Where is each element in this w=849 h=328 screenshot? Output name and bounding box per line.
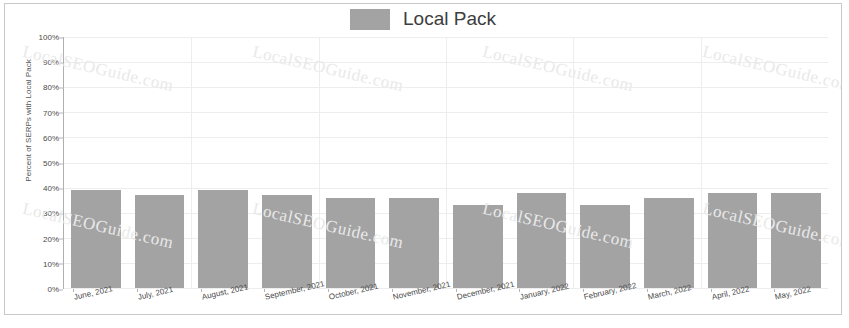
y-axis-tick-label: 0% xyxy=(23,285,59,294)
bar-slot xyxy=(701,37,765,288)
bar[interactable] xyxy=(708,193,758,288)
x-axis-tick-mark xyxy=(711,289,712,292)
bar-slot xyxy=(128,37,192,288)
x-axis-tick-mark xyxy=(392,289,393,292)
bar[interactable] xyxy=(198,190,248,288)
bar-slot xyxy=(255,37,319,288)
x-axis-tick-mark xyxy=(647,289,648,292)
x-axis-labels: June, 2021July, 2021August, 2021Septembe… xyxy=(63,291,828,328)
bar[interactable] xyxy=(517,193,567,288)
x-axis-tick-mark xyxy=(137,289,138,292)
chart-container: Local Pack Percent of SERPs with Local P… xyxy=(4,3,842,315)
y-axis-tick-label: 20% xyxy=(23,234,59,243)
plot-wrapper: 100%90%80%70%60%50%40%30%20%10%0% xyxy=(63,37,828,289)
legend-label-local-pack: Local Pack xyxy=(403,8,496,30)
bar-slot xyxy=(64,37,128,288)
plot-area xyxy=(63,37,828,289)
bar[interactable] xyxy=(71,190,121,288)
bar[interactable] xyxy=(326,198,376,288)
x-axis-tick-mark xyxy=(456,289,457,292)
bar[interactable] xyxy=(453,205,503,288)
bar[interactable] xyxy=(389,198,439,288)
bar[interactable] xyxy=(135,195,185,288)
chart-legend: Local Pack xyxy=(5,8,841,30)
bar[interactable] xyxy=(771,193,821,288)
y-axis-tick-mark xyxy=(59,289,63,290)
bar[interactable] xyxy=(580,205,630,288)
bar-slot xyxy=(382,37,446,288)
bar-slot xyxy=(319,37,383,288)
x-axis-tick-mark xyxy=(201,289,202,292)
bar[interactable] xyxy=(644,198,694,288)
bar-slot xyxy=(510,37,574,288)
bar[interactable] xyxy=(262,195,312,288)
y-axis-tick-label: 10% xyxy=(23,259,59,268)
bar-series-local-pack xyxy=(64,37,828,288)
bar-slot xyxy=(573,37,637,288)
bar-slot xyxy=(764,37,828,288)
bar-slot xyxy=(446,37,510,288)
bar-slot xyxy=(637,37,701,288)
y-axis-title: Percent of SERPs with Local Pack xyxy=(24,26,33,216)
legend-swatch-local-pack xyxy=(350,9,390,30)
bar-slot xyxy=(191,37,255,288)
